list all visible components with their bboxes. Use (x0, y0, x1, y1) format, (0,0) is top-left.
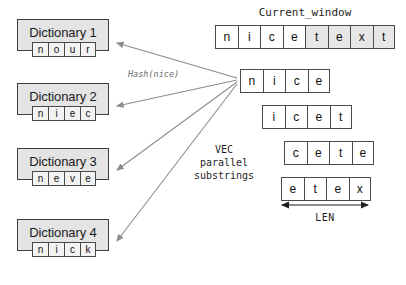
dictionary-block-3[interactable]: Dictionary 3 n e v e (17, 148, 111, 182)
dictionary-letter-cell: v (64, 171, 80, 186)
dictionary-label-3: Dictionary 3 (17, 154, 109, 169)
dictionary-letter-cell: e (48, 171, 64, 186)
substring-cell: c (285, 69, 308, 93)
dictionary-letter-cell: n (32, 171, 48, 186)
vec-parallel-substrings-label: VEC parallel substrings (185, 143, 263, 182)
dictionary-letter-cell: n (32, 242, 48, 257)
substring-cell: c (285, 105, 308, 129)
dictionary-letters-4: n i c k (32, 242, 96, 257)
window-cell: n (215, 25, 238, 49)
current-window-strip: n i c e t e x t (215, 25, 395, 49)
substring-cell: e (308, 69, 331, 93)
substring-cell: i (263, 69, 286, 93)
substring-cell: e (352, 141, 375, 165)
dictionary-letters-2: n i e c (32, 106, 96, 121)
dictionary-letters-3: n e v e (32, 171, 96, 186)
substring-row-2: i c e t (262, 105, 352, 129)
substring-cell: t (330, 105, 353, 129)
dictionary-label-1: Dictionary 1 (17, 25, 109, 40)
dictionary-letter-cell: e (64, 106, 80, 121)
current-window-title: Current_window (215, 6, 395, 19)
window-cell: t (305, 25, 328, 49)
substring-row-1: n i c e (240, 69, 330, 93)
vec-substring-diagram: Dictionary 1 n o u r Dictionary 2 n i e … (0, 0, 406, 285)
substring-cell: c (284, 141, 307, 165)
dictionary-label-2: Dictionary 2 (17, 89, 109, 104)
dictionary-letter-cell: n (32, 106, 48, 121)
substring-cell: e (307, 105, 330, 129)
substring-row-3: c e t e (284, 141, 374, 165)
dictionary-letter-cell: i (48, 106, 64, 121)
dictionary-letter-cell: r (80, 42, 96, 57)
substring-cell: i (262, 105, 285, 129)
window-cell: c (260, 25, 283, 49)
dictionary-letter-cell: o (48, 42, 64, 57)
window-cell: t (373, 25, 396, 49)
len-label: LEN (280, 212, 370, 223)
window-cell: e (328, 25, 351, 49)
substring-cell: e (281, 177, 304, 201)
dictionary-letter-cell: c (64, 242, 80, 257)
dictionary-letter-cell: e (80, 171, 96, 186)
dictionary-letters-1: n o u r (32, 42, 96, 57)
substring-cell: e (307, 141, 330, 165)
window-cell: e (283, 25, 306, 49)
dictionary-letter-cell: c (80, 106, 96, 121)
dictionary-letter-cell: n (32, 42, 48, 57)
substring-cell: e (326, 177, 349, 201)
hash-arrow-to-dictionary-2 (117, 80, 237, 106)
window-cell: i (238, 25, 261, 49)
dictionary-letter-cell: k (80, 242, 96, 257)
dictionary-block-1[interactable]: Dictionary 1 n o u r (17, 19, 111, 53)
substring-row-4: e t e x (281, 177, 371, 201)
dictionary-letter-cell: u (64, 42, 80, 57)
substring-cell: t (304, 177, 327, 201)
dictionary-block-2[interactable]: Dictionary 2 n i e c (17, 83, 111, 117)
dictionary-letter-cell: i (48, 242, 64, 257)
window-cell: x (350, 25, 373, 49)
substring-cell: x (349, 177, 372, 201)
dictionary-label-4: Dictionary 4 (17, 225, 109, 240)
hash-function-label: Hash(nice) (128, 69, 179, 79)
dictionary-block-4[interactable]: Dictionary 4 n i c k (17, 219, 111, 253)
substring-cell: t (329, 141, 352, 165)
substring-cell: n (240, 69, 263, 93)
